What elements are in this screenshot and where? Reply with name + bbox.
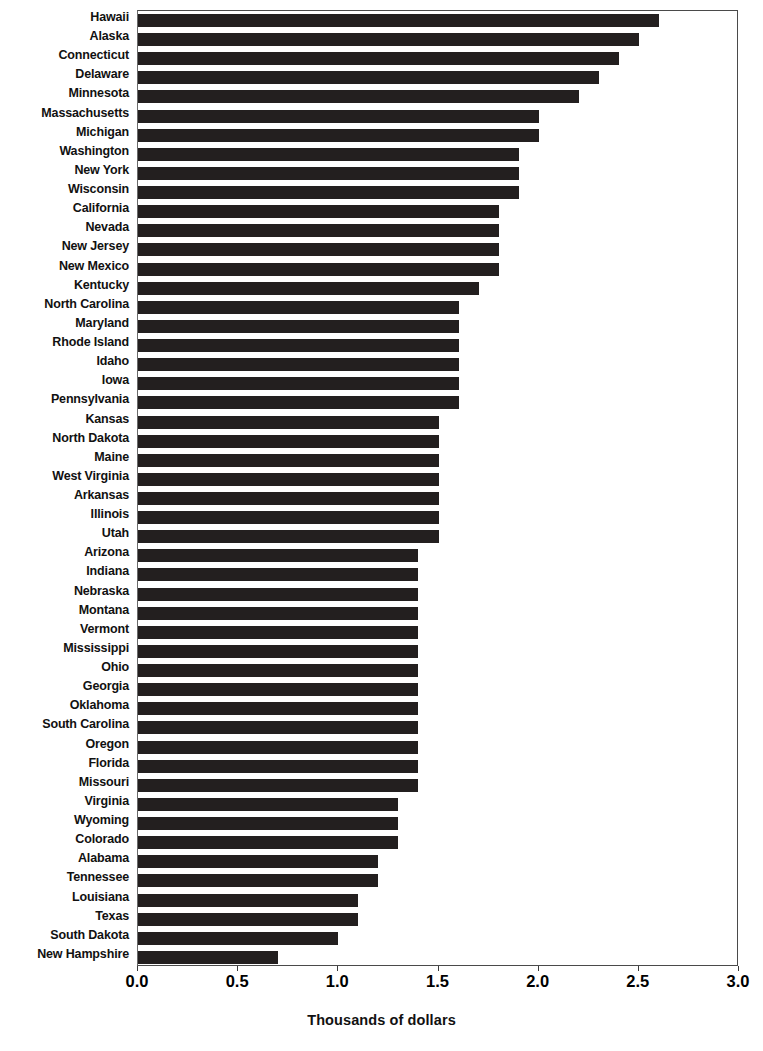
category-label: Virginia [0, 795, 129, 808]
bar [138, 473, 439, 486]
bar [138, 52, 619, 65]
bar [138, 894, 358, 907]
bar [138, 186, 519, 199]
x-tick-label: 0.0 [102, 972, 172, 991]
bar-row [138, 260, 737, 279]
bar [138, 110, 539, 123]
category-label: Indiana [0, 565, 129, 578]
category-label: South Dakota [0, 929, 129, 942]
category-label: Montana [0, 604, 129, 617]
bar-row [138, 871, 737, 890]
category-label: Hawaii [0, 11, 129, 24]
bar [138, 779, 418, 792]
bar-row [138, 107, 737, 126]
x-tick-label: 3.0 [703, 972, 763, 991]
bar [138, 626, 418, 639]
category-label: Wyoming [0, 814, 129, 827]
bar [138, 913, 358, 926]
bar [138, 358, 459, 371]
bar-row [138, 508, 737, 527]
category-label: North Carolina [0, 298, 129, 311]
bar [138, 320, 459, 333]
bar-row [138, 718, 737, 737]
bar-row [138, 393, 737, 412]
bar [138, 71, 599, 84]
bar [138, 798, 398, 811]
bar-row [138, 317, 737, 336]
bar-row [138, 30, 737, 49]
bar [138, 855, 378, 868]
x-tick-label: 1.5 [403, 972, 473, 991]
bar-row [138, 11, 737, 30]
bar [138, 167, 519, 180]
bar [138, 645, 418, 658]
bar [138, 454, 439, 467]
bar-row [138, 202, 737, 221]
x-tick-mark [538, 966, 539, 971]
category-label: Maine [0, 451, 129, 464]
bar [138, 664, 418, 677]
bar [138, 836, 398, 849]
x-tick-label: 1.0 [302, 972, 372, 991]
bar [138, 874, 378, 887]
x-tick-label: 0.5 [202, 972, 272, 991]
category-label: California [0, 202, 129, 215]
bar-row [138, 87, 737, 106]
category-label: Rhode Island [0, 336, 129, 349]
category-label: Connecticut [0, 49, 129, 62]
bar-row [138, 68, 737, 87]
bar [138, 683, 418, 696]
bar [138, 530, 439, 543]
x-tick-label: 2.0 [503, 972, 573, 991]
bar-row [138, 795, 737, 814]
category-label: Ohio [0, 661, 129, 674]
bar-row [138, 642, 737, 661]
bar [138, 760, 418, 773]
bar-row [138, 699, 737, 718]
category-label: Arizona [0, 546, 129, 559]
category-label: New Hampshire [0, 948, 129, 961]
bar [138, 511, 439, 524]
bar-row [138, 298, 737, 317]
bar [138, 396, 459, 409]
bar [138, 224, 499, 237]
bar [138, 282, 479, 295]
bar-row [138, 355, 737, 374]
bar-row [138, 814, 737, 833]
category-label: Alabama [0, 852, 129, 865]
x-tick-mark [337, 966, 338, 971]
category-label: Arkansas [0, 489, 129, 502]
category-label: New York [0, 164, 129, 177]
bar-row [138, 585, 737, 604]
x-tick-mark [438, 966, 439, 971]
bar-row [138, 546, 737, 565]
x-tick-mark [738, 966, 739, 971]
bar-row [138, 432, 737, 451]
bar [138, 14, 659, 27]
bar-row [138, 852, 737, 871]
bar-row [138, 527, 737, 546]
bar-row [138, 221, 737, 240]
category-label: Oklahoma [0, 699, 129, 712]
category-label: Delaware [0, 68, 129, 81]
bar [138, 205, 499, 218]
category-label: Washington [0, 145, 129, 158]
bar [138, 721, 418, 734]
category-label: Maryland [0, 317, 129, 330]
bar-row [138, 623, 737, 642]
category-label: New Jersey [0, 240, 129, 253]
bar [138, 817, 398, 830]
bar-row [138, 240, 737, 259]
bar [138, 243, 499, 256]
bar-row [138, 757, 737, 776]
bar-row [138, 661, 737, 680]
bar-row [138, 336, 737, 355]
bar [138, 492, 439, 505]
bar [138, 416, 439, 429]
x-tick-mark [137, 966, 138, 971]
category-label: Utah [0, 527, 129, 540]
bar-series [138, 11, 737, 965]
category-label: Michigan [0, 126, 129, 139]
x-tick-mark [638, 966, 639, 971]
x-tick-mark [237, 966, 238, 971]
